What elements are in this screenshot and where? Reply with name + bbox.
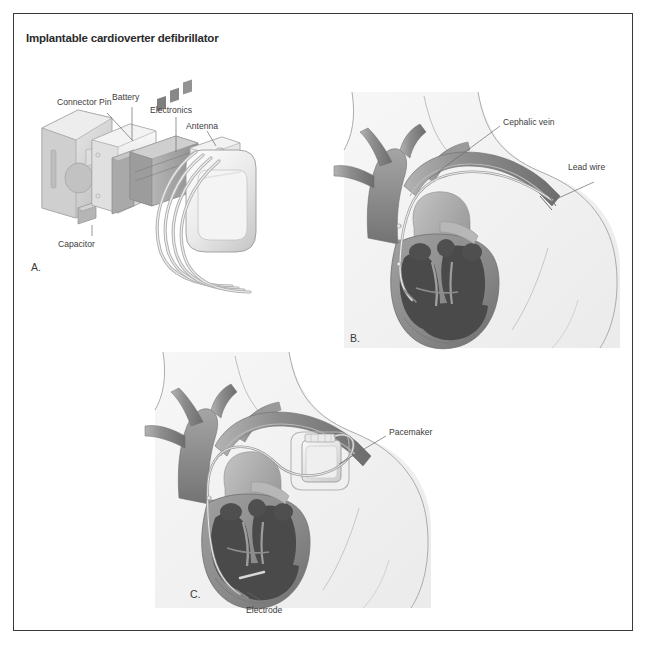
device-front-can [186, 150, 256, 252]
label-connector-pin: Connector Pin [57, 97, 112, 107]
label-electrode: Electrode [246, 605, 283, 615]
label-capacitor: Capacitor [58, 239, 95, 249]
pacemaker-header [305, 434, 335, 442]
panel-c-letter: C. [190, 588, 201, 600]
illustration-canvas: Connector Pin Battery Electronics Antenn… [0, 0, 648, 650]
figure-root: Implantable cardioverter defibrillator [0, 0, 648, 650]
label-electronics: Electronics [150, 105, 192, 115]
label-antenna: Antenna [186, 121, 218, 131]
label-lead-wire: Lead wire [568, 162, 605, 172]
panel-a-illustration: Connector Pin Battery Electronics Antenn… [42, 80, 256, 292]
panel-a-letter: A. [31, 261, 41, 273]
panel-c-illustration: Pacemaker Electrode [145, 352, 433, 615]
label-battery: Battery [112, 92, 140, 102]
panel-b-letter: B. [350, 332, 360, 344]
label-pacemaker: Pacemaker [389, 427, 433, 437]
label-cephalic-vein: Cephalic vein [503, 117, 555, 127]
panel-b-illustration: Cephalic vein Lead wire [334, 92, 620, 349]
